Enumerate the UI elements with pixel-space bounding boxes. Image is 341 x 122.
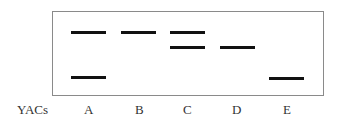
lane-label-a: A [84,103,93,117]
band-b-upper [121,31,156,34]
lane-label-e: E [283,103,291,117]
lane-label-b: B [135,103,144,117]
row-label-yacs: YACs [17,103,48,117]
band-a-upper [71,31,106,34]
band-c-upper [170,31,205,34]
band-a-lower [71,76,106,79]
band-e-lower [269,77,304,80]
lane-label-d: D [232,103,241,117]
band-d-middle [220,46,255,49]
lane-label-c: C [183,103,192,117]
band-c-middle [170,46,205,49]
gel-box [52,11,324,96]
